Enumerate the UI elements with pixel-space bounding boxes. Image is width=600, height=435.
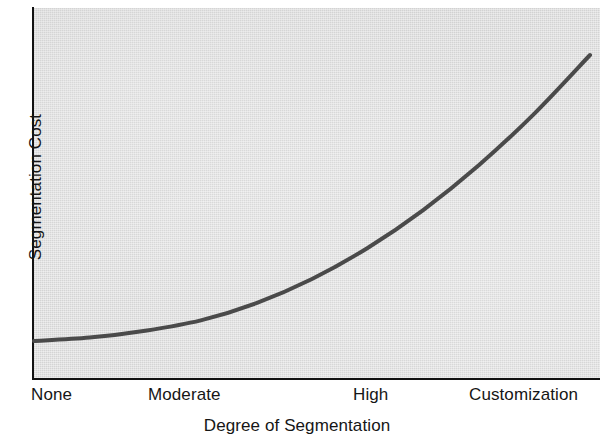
chart-figure: Segmentation Cost None Moderate High Cus… bbox=[0, 0, 600, 435]
plot-area bbox=[33, 8, 600, 378]
x-tick-label-none: None bbox=[31, 385, 72, 405]
y-axis-title: Segmentation Cost bbox=[26, 87, 46, 287]
x-tick-label-moderate: Moderate bbox=[148, 385, 221, 405]
x-tick-label-customization: Customization bbox=[469, 385, 578, 405]
x-axis-line bbox=[32, 378, 600, 380]
x-tick-label-high: High bbox=[353, 385, 388, 405]
x-axis-title: Degree of Segmentation bbox=[0, 416, 594, 435]
